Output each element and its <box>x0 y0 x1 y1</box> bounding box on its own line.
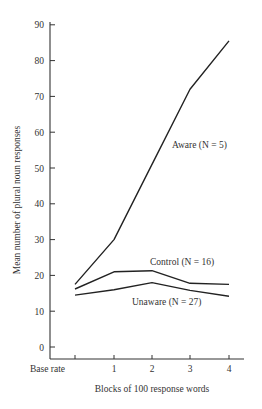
y-tick-label: 30 <box>35 235 45 245</box>
x-tick-label: 2 <box>150 364 155 374</box>
x-tick-label: Base rate <box>30 364 65 374</box>
series-line-unaware <box>75 283 229 297</box>
y-tick-label: 70 <box>35 92 45 102</box>
y-tick-label: 90 <box>35 20 45 30</box>
x-tick-label: 3 <box>188 364 193 374</box>
y-tick-label: 10 <box>35 307 45 317</box>
y-axis-title: Mean number of plural noun responses <box>12 125 22 274</box>
y-axis-ticks: 0102030405060708090 <box>35 20 56 352</box>
x-tick-label: 1 <box>112 364 117 374</box>
series-label-aware: Aware (N = 5) <box>172 140 227 151</box>
y-tick-label: 80 <box>35 56 45 66</box>
x-axis-title: Blocks of 100 response words <box>95 384 210 394</box>
y-tick-label: 0 <box>39 343 44 353</box>
series-label-control: Control (N = 16) <box>150 257 214 268</box>
series-label-unaware: Unaware (N = 27) <box>132 297 201 308</box>
line-chart: Mean number of plural noun responses 010… <box>0 0 262 409</box>
x-axis-ticks: Base rate1234 <box>30 355 232 374</box>
y-tick-label: 40 <box>35 199 45 209</box>
series-line-control <box>75 271 229 289</box>
y-tick-label: 50 <box>35 164 45 174</box>
y-tick-label: 20 <box>35 271 45 281</box>
y-tick-label: 60 <box>35 128 45 138</box>
series-line-aware <box>75 41 229 285</box>
x-tick-label: 4 <box>227 364 232 374</box>
